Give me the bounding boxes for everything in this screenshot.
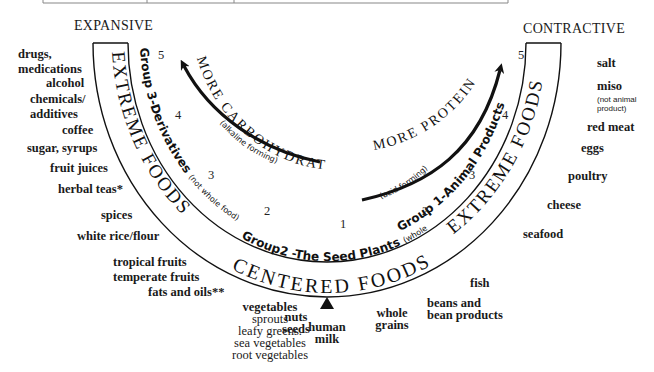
food-salt: salt: [597, 56, 616, 71]
food-coffee: coffee: [62, 123, 93, 138]
food-drugs-medications: drugs, medications: [18, 47, 82, 77]
scale-left-5: 5: [158, 48, 164, 63]
more-protein-label: MORE PROTEIN: [372, 74, 480, 152]
scale-right-2: 2: [422, 204, 428, 219]
food-herbal-teas: herbal teas*: [58, 182, 123, 197]
food-eggs: eggs: [581, 141, 604, 156]
food-sugar-syrups: sugar, syrups: [27, 141, 97, 156]
contractive-heading: CONTRACTIVE: [523, 21, 625, 37]
scale-right-4: 4: [502, 108, 508, 123]
food-fats-oils: fats and oils**: [148, 285, 224, 300]
food-alcohol: alcohol: [46, 76, 84, 91]
food-miso: miso: [597, 79, 622, 94]
food-fish: fish: [470, 276, 489, 291]
scale-right-5: 5: [518, 48, 524, 63]
acid-forming-note: (acid forming): [378, 164, 429, 201]
food-whole-grains: whole grains: [370, 307, 414, 331]
scale-right-3: 3: [469, 168, 475, 183]
food-fruits: tropical fruits temperate fruits: [113, 255, 199, 285]
scale-left-4: 4: [175, 108, 181, 123]
food-beans: beans and bean products: [427, 297, 503, 321]
food-fruit-juices: fruit juices: [50, 161, 108, 176]
scale-left-3: 3: [208, 168, 214, 183]
food-poultry: poultry: [568, 169, 608, 184]
food-miso-note: (not animal product): [597, 95, 637, 113]
protein-arrow-icon: [362, 70, 500, 200]
food-cheese: cheese: [547, 198, 581, 213]
food-chemicals-additives: chemicals/ additives: [30, 92, 86, 122]
food-spectrum-diagram: EXTREME FOODS EXTREME FOODS CENTERED FOO…: [0, 0, 654, 372]
expansive-heading: EXPANSIVE: [74, 18, 153, 34]
top-table-border: [43, 0, 508, 3]
scale-center-1: 1: [340, 217, 346, 232]
food-seafood: seafood: [523, 227, 563, 242]
food-white-rice-flour: white rice/flour: [77, 229, 159, 244]
food-spices: spices: [101, 208, 132, 223]
food-human-milk: human milk: [305, 321, 349, 345]
food-red-meat: red meat: [587, 120, 634, 135]
scale-left-2: 2: [264, 204, 270, 219]
